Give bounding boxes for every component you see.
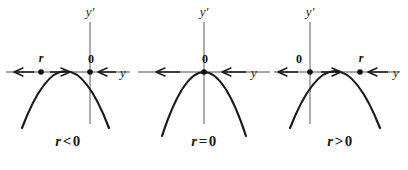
- caption-value: 0: [73, 133, 81, 149]
- bifurcation-figure: r 0 y′ y r<0: [0, 0, 408, 170]
- equilibrium-point-zero: [201, 69, 207, 75]
- caption-r-positive: r>0: [272, 133, 408, 150]
- parabola-curve: [290, 71, 380, 128]
- plot-r-negative: r 0 y′ y: [0, 0, 136, 140]
- caption-variable: r: [191, 133, 197, 149]
- horizontal-axis-label: y: [249, 65, 257, 80]
- label-root-r: r: [359, 51, 364, 65]
- plot-r-positive: 0 r y′ y: [272, 0, 408, 140]
- horizontal-axis-label: y: [391, 65, 399, 80]
- equilibrium-point-zero: [87, 69, 93, 75]
- flow-arrow-left-of-origin: [156, 68, 180, 76]
- panel-r-positive: 0 r y′ y r>0: [272, 0, 408, 170]
- label-root-zero: 0: [202, 52, 208, 66]
- caption-r-negative: r<0: [0, 133, 136, 150]
- flow-arrow-right-of-origin: [98, 68, 116, 76]
- caption-r-zero: r=0: [136, 133, 272, 150]
- flow-arrow-far-left: [278, 68, 298, 76]
- vertical-axis-label: y′: [198, 4, 209, 19]
- vertical-axis-label: y′: [84, 4, 95, 19]
- caption-value: 0: [209, 133, 217, 149]
- equilibrium-point-r: [38, 69, 44, 75]
- caption-relation: =: [198, 133, 209, 149]
- panel-r-zero: 0 y′ y r=0: [136, 0, 272, 170]
- flow-arrow-right-of-origin: [222, 68, 246, 76]
- panel-r-negative: r 0 y′ y r<0: [0, 0, 136, 170]
- caption-relation: >: [334, 133, 345, 149]
- flow-arrow-right-of-r: [368, 68, 388, 76]
- flow-arrow-far-left: [14, 68, 34, 76]
- caption-relation: <: [62, 133, 73, 149]
- label-root-zero: 0: [88, 52, 94, 66]
- parabola-curve: [22, 71, 109, 128]
- equilibrium-point-zero: [307, 69, 313, 75]
- label-root-zero: 0: [296, 52, 302, 66]
- caption-variable: r: [55, 133, 61, 149]
- plot-r-zero: 0 y′ y: [136, 0, 272, 140]
- equilibrium-point-r: [357, 69, 363, 75]
- caption-variable: r: [327, 133, 333, 149]
- caption-value: 0: [345, 133, 353, 149]
- horizontal-axis-label: y: [118, 65, 126, 80]
- vertical-axis-label: y′: [304, 4, 315, 19]
- label-root-r: r: [39, 51, 44, 65]
